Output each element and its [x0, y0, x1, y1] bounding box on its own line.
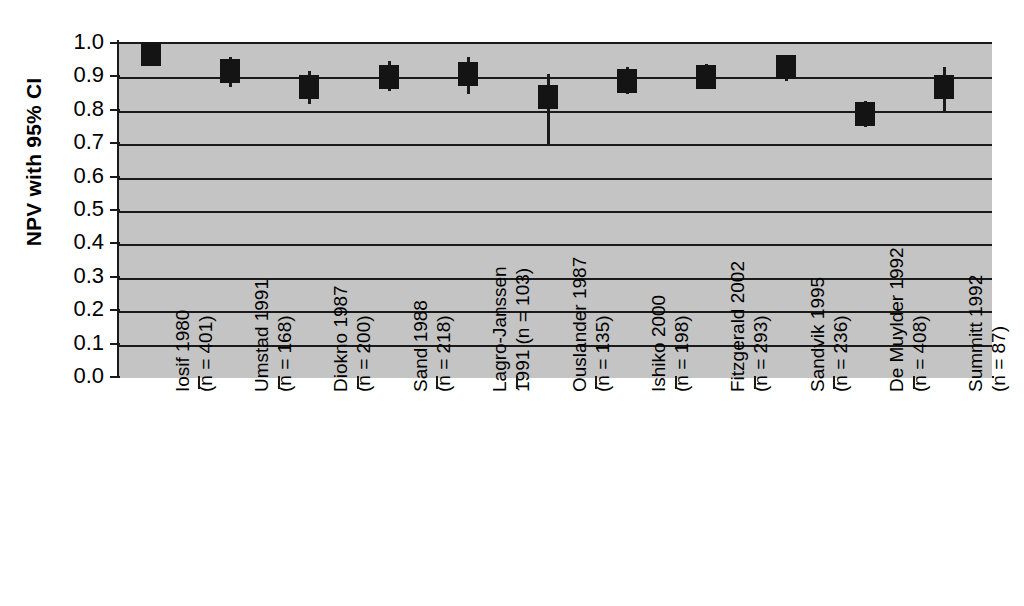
x-axis-label-line: Sandvik 1995: [806, 172, 829, 392]
x-axis-label-line: (n = 135): [591, 172, 614, 392]
x-axis-label-line: Ishiko 2000: [647, 172, 670, 392]
x-axis-category-label: Iosif 1980(n = 401): [171, 172, 217, 392]
x-axis-label-line: (n = 401): [194, 172, 217, 392]
x-axis-label-line: (n = 198): [670, 172, 693, 392]
x-axis-label-line: Ouslander 1987: [568, 172, 591, 392]
y-tick-label: 0.8: [28, 98, 104, 120]
x-axis-label-line: Summitt 1992: [964, 172, 987, 392]
y-axis-tick-labels: 1.00.90.80.70.60.50.40.30.20.10.0: [28, 42, 104, 376]
data-marker: [696, 65, 716, 89]
y-tick-label: 0.7: [28, 131, 104, 153]
y-tick-label: 0.4: [28, 231, 104, 253]
data-marker: [538, 85, 558, 109]
x-axis-category-label: Diokno 1987(n = 200): [329, 172, 375, 392]
x-axis-label-line: (n = 293): [749, 172, 772, 392]
x-axis-category-label: Sandvik 1995(n = 236): [806, 172, 852, 392]
x-axis-label-line: Fitzgerald 2002: [726, 172, 749, 392]
gridline: [119, 144, 992, 146]
y-tick-label: 0.3: [28, 265, 104, 287]
x-axis-category-label: Sand 1988(n = 218): [409, 172, 455, 392]
x-axis-label-line: (n = 200): [352, 172, 375, 392]
data-marker: [776, 55, 796, 79]
data-marker: [220, 59, 240, 83]
x-axis-label-line: (n = 408): [908, 172, 931, 392]
y-tick-mark: [110, 109, 120, 111]
x-tick-mark: [436, 376, 438, 389]
data-marker: [617, 69, 637, 93]
x-axis-label-line: Diokno 1987: [329, 172, 352, 392]
y-tick-label: 1.0: [28, 31, 104, 53]
x-tick-mark: [516, 376, 518, 389]
x-tick-mark: [357, 376, 359, 389]
data-marker: [855, 102, 875, 126]
y-tick-mark: [110, 142, 120, 144]
x-axis-category-label: De Muylder 1992(n = 408): [885, 172, 931, 392]
x-tick-mark: [833, 376, 835, 389]
x-axis-category-label: Ishiko 2000(n = 198): [647, 172, 693, 392]
x-axis-label-line: De Muylder 1992: [885, 172, 908, 392]
x-axis-label-line: Umstad 1991: [250, 172, 273, 392]
y-tick-mark: [110, 242, 120, 244]
x-axis-category-label: Ouslander 1987(n = 135): [568, 172, 614, 392]
x-tick-mark: [754, 376, 756, 389]
x-axis-label-line: Sand 1988: [409, 172, 432, 392]
x-tick-mark: [198, 376, 200, 389]
y-tick-mark: [110, 309, 120, 311]
x-axis-tick-labels: Iosif 1980(n = 401)Umstad 1991(n = 168)D…: [119, 392, 992, 606]
y-tick-label: 0.5: [28, 198, 104, 220]
npv-forest-chart: NPV with 95% CI 1.00.90.80.70.60.50.40.3…: [0, 0, 1024, 606]
x-tick-mark: [595, 376, 597, 389]
gridline: [119, 77, 992, 79]
x-tick-mark: [675, 376, 677, 389]
data-marker: [379, 65, 399, 89]
x-axis-label-line: (n = 236): [829, 172, 852, 392]
data-marker: [934, 75, 954, 99]
y-tick-mark: [110, 176, 120, 178]
x-axis-label-line: (n = 87): [987, 172, 1010, 392]
data-marker: [141, 42, 161, 66]
x-axis-category-label: Lagro-Janssen1991 (n = 103): [488, 172, 534, 392]
y-tick-mark: [110, 209, 120, 211]
y-tick-mark: [110, 42, 120, 44]
data-marker: [458, 62, 478, 86]
y-tick-label: 0.6: [28, 165, 104, 187]
x-axis-label-line: (n = 218): [432, 172, 455, 392]
y-tick-label: 0.1: [28, 332, 104, 354]
x-axis-category-label: Fitzgerald 2002(n = 293): [726, 172, 772, 392]
x-axis-label-line: (n = 168): [273, 172, 296, 392]
data-marker: [299, 75, 319, 99]
x-tick-mark: [913, 376, 915, 389]
x-axis-category-label: Umstad 1991(n = 168): [250, 172, 296, 392]
y-tick-label: 0.9: [28, 64, 104, 86]
x-tick-mark: [278, 376, 280, 389]
x-axis-label-line: Lagro-Janssen: [488, 172, 511, 392]
y-tick-label: 0.0: [28, 365, 104, 387]
x-axis-label-line: 1991 (n = 103): [511, 172, 534, 392]
y-tick-mark: [110, 343, 120, 345]
y-tick-label: 0.2: [28, 298, 104, 320]
y-tick-mark: [110, 276, 120, 278]
x-axis-category-label: Summitt 1992(n = 87): [964, 172, 1010, 392]
y-tick-mark: [110, 376, 120, 378]
y-tick-mark: [110, 75, 120, 77]
x-axis-label-line: Iosif 1980: [171, 172, 194, 392]
